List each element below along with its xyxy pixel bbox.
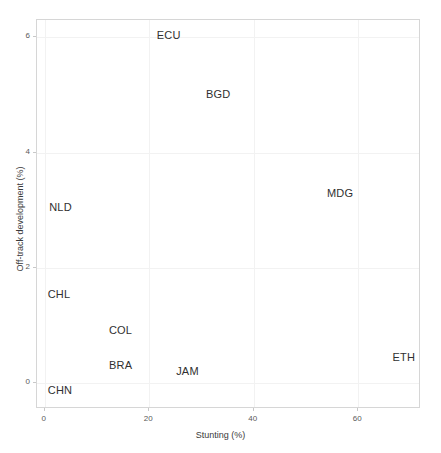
scatter-plot-figure: ECUBGDMDGNLDCHLCOLBRAJAMCHNETH 0204060 0… <box>0 0 441 453</box>
data-point-bgd: BGD <box>206 88 230 99</box>
y-tick-label: 6 <box>14 32 30 40</box>
gridline-vertical <box>149 20 150 407</box>
gridline-horizontal <box>37 37 419 38</box>
x-axis-title: Stunting (%) <box>0 430 441 440</box>
x-tick-label: 0 <box>42 415 46 423</box>
y-tick-mark <box>33 36 36 37</box>
gridline-horizontal <box>37 268 419 269</box>
gridline-horizontal <box>37 383 419 384</box>
data-point-ecu: ECU <box>157 29 181 40</box>
data-point-col: COL <box>109 325 132 336</box>
x-tick-label: 40 <box>248 415 257 423</box>
y-axis-title: Off-track development (%) <box>15 119 25 319</box>
gridline-horizontal <box>37 153 419 154</box>
gridline-vertical <box>45 20 46 407</box>
data-point-mdg: MDG <box>327 188 353 199</box>
x-tick-mark <box>44 408 45 411</box>
x-tick-mark <box>253 408 254 411</box>
y-tick-mark <box>33 152 36 153</box>
gridline-vertical <box>358 20 359 407</box>
plot-panel: ECUBGDMDGNLDCHLCOLBRAJAMCHNETH <box>36 19 420 408</box>
y-tick-mark <box>33 382 36 383</box>
data-point-jam: JAM <box>176 365 199 376</box>
y-tick-label: 0 <box>14 378 30 386</box>
x-tick-mark <box>148 408 149 411</box>
x-tick-label: 20 <box>144 415 153 423</box>
data-point-eth: ETH <box>392 352 415 363</box>
gridline-vertical <box>254 20 255 407</box>
data-point-chn: CHN <box>48 384 72 395</box>
x-tick-mark <box>357 408 358 411</box>
x-tick-label: 60 <box>353 415 362 423</box>
y-tick-mark <box>33 267 36 268</box>
data-point-nld: NLD <box>49 201 72 212</box>
data-point-chl: CHL <box>48 289 71 300</box>
data-point-bra: BRA <box>109 360 132 371</box>
